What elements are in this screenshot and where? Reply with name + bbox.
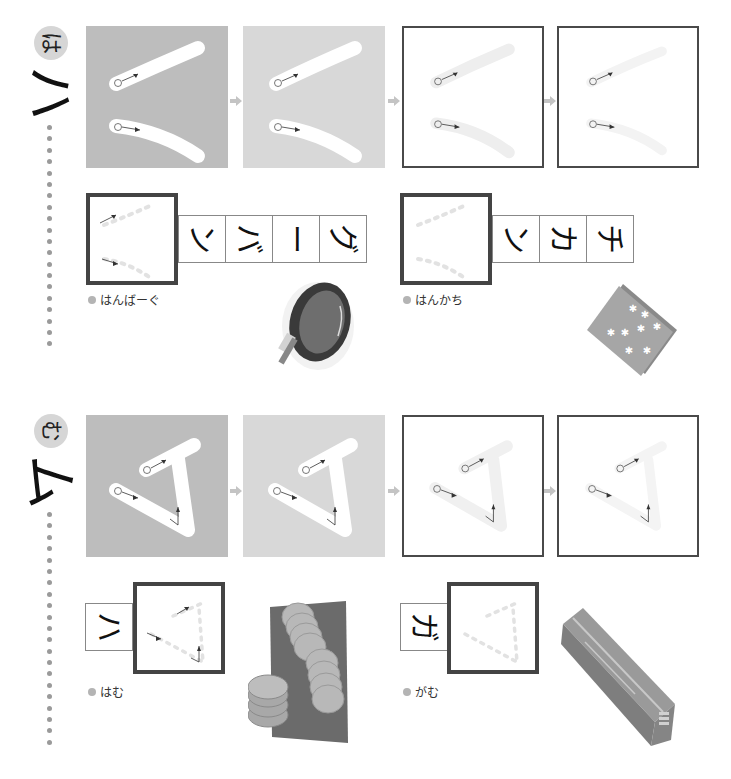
badge-text: は [40, 32, 62, 54]
word-cell: ン [178, 215, 226, 263]
stroke-step-1 [86, 26, 228, 168]
trace-guide [404, 197, 488, 281]
stroke-step-4 [557, 26, 699, 168]
handkerchief-icon: ✱✱ ✱✱✱✱ ✱✱ [585, 278, 685, 378]
hiragana-badge-mu: む [34, 414, 68, 448]
stroke-guide-ha [86, 26, 228, 168]
gum-icon [555, 600, 685, 750]
svg-text:✱: ✱ [641, 309, 649, 320]
stroke-step-1 [86, 415, 228, 557]
stroke-guide-mu [404, 417, 542, 555]
trace-guide [90, 197, 174, 281]
katakana-mu-large: ム [24, 452, 74, 512]
bullet-icon [403, 688, 411, 696]
practice-box-mu[interactable] [447, 582, 539, 674]
practice-box-mu[interactable] [133, 582, 225, 674]
word-label-gum: がむ [403, 683, 439, 700]
stroke-step-4 [557, 415, 699, 557]
practice-box-ha[interactable] [86, 193, 178, 285]
stroke-guide-mu [559, 417, 697, 555]
stroke-guide-mu [243, 415, 385, 557]
word-cell: ハ [85, 603, 133, 651]
word-cell: バ [225, 215, 273, 263]
hiragana-badge-ha: は [34, 26, 68, 60]
stroke-guide-mu [86, 415, 228, 557]
stroke-step-2 [243, 26, 385, 168]
svg-text:✱: ✱ [607, 327, 615, 338]
stroke-step-3 [402, 415, 544, 557]
bullet-icon [403, 296, 411, 304]
word-cell: グ [319, 215, 367, 263]
svg-text:✱: ✱ [625, 345, 633, 356]
ham-icon [248, 595, 358, 755]
svg-text:✱: ✱ [637, 323, 645, 334]
word-cell: ン [492, 215, 540, 263]
next-arrow-icon [388, 482, 400, 494]
word-cell: チ [586, 215, 634, 263]
next-arrow-icon [230, 92, 242, 104]
word-label-ham: はむ [88, 683, 124, 700]
trace-guide [137, 586, 221, 670]
word-label-hamburger: はんばーぐ [88, 291, 160, 308]
next-arrow-icon [544, 482, 556, 494]
stroke-step-3 [402, 26, 544, 168]
stroke-guide-ha [243, 26, 385, 168]
word-label-handkerchief: はんかち [403, 291, 463, 308]
word-cell: ガ [400, 603, 448, 651]
svg-text:✱: ✱ [629, 303, 637, 314]
stroke-guide-ha [404, 28, 542, 166]
svg-text:✱: ✱ [653, 321, 661, 332]
katakana-ha-large: ハ [24, 62, 74, 124]
trace-guide [451, 586, 535, 670]
svg-text:✱: ✱ [621, 327, 629, 338]
next-arrow-icon [544, 92, 556, 104]
dotted-divider [47, 512, 53, 751]
word-cell: カ [539, 215, 587, 263]
next-arrow-icon [388, 92, 400, 104]
big-katakana-text: ム [22, 455, 76, 509]
big-katakana-text: ハ [22, 66, 76, 120]
bullet-icon [88, 296, 96, 304]
word-cell: ー [272, 215, 320, 263]
svg-text:✱: ✱ [643, 345, 651, 356]
stroke-guide-ha [559, 28, 697, 166]
practice-box-ha[interactable] [400, 193, 492, 285]
bullet-icon [88, 688, 96, 696]
next-arrow-icon [230, 482, 242, 494]
dotted-divider [47, 125, 53, 353]
badge-text: む [40, 420, 62, 442]
hamburger-icon [268, 278, 356, 376]
stroke-step-2 [243, 415, 385, 557]
